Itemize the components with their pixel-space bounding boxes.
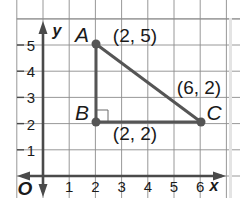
point-a <box>92 40 101 49</box>
x-tick-label: 5 <box>170 178 178 195</box>
point-c-label: C <box>206 101 222 124</box>
x-tick-label: 6 <box>196 178 204 195</box>
origin-label: O <box>18 178 33 198</box>
y-tick-label: 1 <box>27 142 35 159</box>
point-b-label: B <box>75 101 89 124</box>
y-tick-label: 5 <box>27 37 35 54</box>
y-tick-labels: 12345 <box>17 37 35 159</box>
x-tick-label: 2 <box>91 178 99 195</box>
y-axis-label: y <box>52 22 63 39</box>
x-tick-label: 1 <box>65 178 73 195</box>
graph-svg: 123456 12345 O x y A (2, 5) B (2, 2) C (… <box>0 0 240 198</box>
x-tick-label: 3 <box>117 178 125 195</box>
point-b-coords: (2, 2) <box>113 123 157 144</box>
point-b <box>92 118 101 127</box>
y-tick-label: 3 <box>27 89 35 106</box>
point-c-coords: (6, 2) <box>177 77 221 98</box>
y-axis-up-arrow-icon <box>39 21 48 34</box>
x-tick-label: 4 <box>144 178 152 195</box>
x-axis-label: x <box>209 177 220 194</box>
y-tick-label: 4 <box>27 63 35 80</box>
point-c <box>197 118 206 127</box>
point-a-label: A <box>73 23 89 46</box>
y-tick-label: 2 <box>27 116 35 133</box>
y-axis-down-arrow-icon <box>39 184 48 197</box>
coordinate-plane-diagram: 123456 12345 O x y A (2, 5) B (2, 2) C (… <box>0 0 240 198</box>
page-edge-shadow <box>229 18 232 198</box>
point-a-coords: (2, 5) <box>113 25 157 46</box>
x-tick-labels: 123456 <box>65 178 204 195</box>
